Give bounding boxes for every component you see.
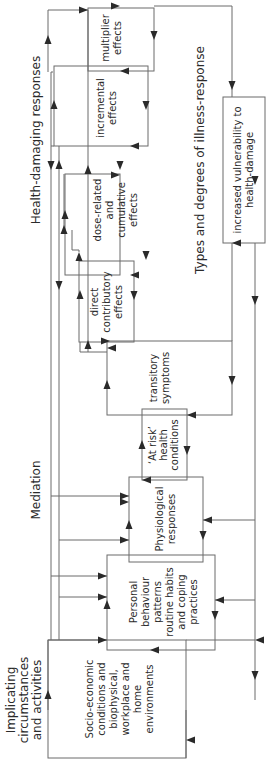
svg-text:multiplier: multiplier <box>100 13 111 62</box>
box-label-dose-related: dose-related and cumulative effects <box>92 179 139 242</box>
svg-text:Physiological: Physiological <box>154 487 165 552</box>
box-label-physiological: Physiological responses <box>154 487 177 552</box>
box-label-at-risk: ‘At risk’ health conditions <box>147 419 180 470</box>
svg-text:biophysical,: biophysical, <box>108 669 119 728</box>
svg-text:effects: effects <box>128 193 139 227</box>
svg-text:health: health <box>158 429 169 461</box>
svg-text:conditions and: conditions and <box>96 662 107 735</box>
svg-text:and coping: and coping <box>176 574 187 629</box>
svg-text:Implicating: Implicating <box>4 667 18 734</box>
svg-text:Socio-economic: Socio-economic <box>84 660 95 739</box>
svg-text:Health-damaging responses: Health-damaging responses <box>29 56 43 225</box>
svg-text:home: home <box>132 685 143 713</box>
svg-text:effects: effects <box>113 285 124 319</box>
svg-text:symptoms: symptoms <box>160 352 171 404</box>
section-label-mediation: Mediation <box>29 460 43 519</box>
section-label-implicating: Implicating circumstances and activities <box>4 657 44 744</box>
svg-text:direct: direct <box>89 288 100 317</box>
svg-text:and activities: and activities <box>30 660 44 741</box>
svg-text:patterns: patterns <box>152 581 163 623</box>
svg-text:cumulative: cumulative <box>116 182 127 238</box>
svg-text:‘At risk’: ‘At risk’ <box>147 426 158 464</box>
box-label-socio-economic: Socio-economic conditions and biophysica… <box>84 660 155 739</box>
box-label-personal-behaviour: Personal behaviour patterns routine habi… <box>128 567 199 636</box>
svg-text:environments: environments <box>144 665 155 734</box>
section-label-health-damaging: Health-damaging responses <box>29 56 43 225</box>
svg-text:effects: effects <box>112 21 123 55</box>
svg-text:dose-related: dose-related <box>92 179 103 242</box>
svg-text:incremental: incremental <box>95 78 106 138</box>
svg-text:responses: responses <box>166 494 177 545</box>
svg-text:practices: practices <box>188 579 199 625</box>
svg-text:conditions: conditions <box>169 419 180 470</box>
svg-text:transitory: transitory <box>148 354 159 403</box>
svg-text:increased vulnerability to: increased vulnerability to <box>232 106 243 233</box>
svg-text:workplace and: workplace and <box>120 662 131 735</box>
svg-text:contributory: contributory <box>101 271 112 333</box>
health-damage-flow-diagram: Implicating circumstances and activities… <box>0 0 280 767</box>
svg-text:routine habits: routine habits <box>164 567 175 636</box>
box-label-transitory: transitory symptoms <box>148 352 171 404</box>
box-label-incremental: incremental effects <box>95 78 118 138</box>
box-label-multiplier: multiplier effects <box>100 13 123 62</box>
box-label-direct-contributory: direct contributory effects <box>89 271 124 333</box>
svg-text:health-damage: health-damage <box>244 132 255 208</box>
svg-text:Mediation: Mediation <box>29 460 43 519</box>
svg-text:effects: effects <box>107 91 118 125</box>
svg-text:behaviour: behaviour <box>140 576 151 627</box>
svg-text:Types and degrees of illness-r: Types and degrees of illness-response <box>193 46 207 275</box>
svg-text:Personal: Personal <box>128 581 139 624</box>
svg-text:circumstances: circumstances <box>17 657 31 744</box>
section-label-illness-response: Types and degrees of illness-response <box>193 46 207 275</box>
box-label-vulnerability: increased vulnerability to health-damage <box>232 106 255 233</box>
svg-text:and: and <box>104 201 115 220</box>
